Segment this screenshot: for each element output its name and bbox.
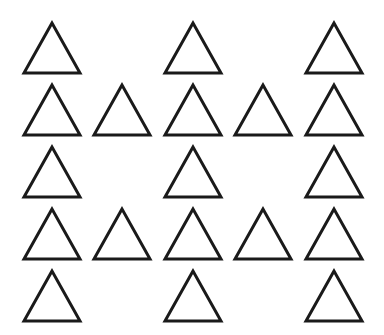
triangle-icon — [306, 209, 362, 259]
triangle-icon — [94, 85, 150, 135]
triangle-icon — [165, 271, 221, 321]
triangle-icon — [24, 147, 80, 197]
triangle-icon — [24, 271, 80, 321]
triangle-icon — [165, 85, 221, 135]
triangle-icon — [24, 85, 80, 135]
triangle-icon — [165, 23, 221, 73]
triangle-icon — [165, 209, 221, 259]
triangle-icon — [306, 271, 362, 321]
triangle-icon — [306, 23, 362, 73]
triangle-icon — [24, 209, 80, 259]
triangle-icon — [235, 85, 291, 135]
triangle-icon — [94, 209, 150, 259]
triangle-icon — [306, 147, 362, 197]
triangle-icon — [306, 85, 362, 135]
triangle-icon — [235, 209, 291, 259]
triangle-icon — [165, 147, 221, 197]
triangle-icon — [24, 23, 80, 73]
triangle-grid — [0, 0, 384, 335]
